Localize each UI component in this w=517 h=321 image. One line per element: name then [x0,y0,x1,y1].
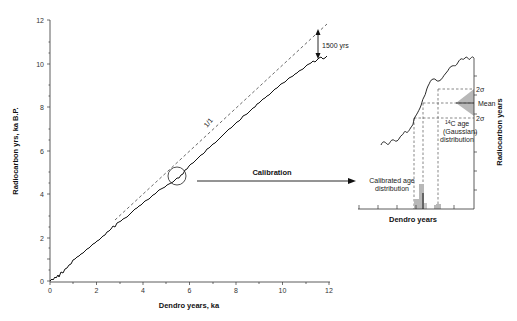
c14-label-line1: 14C age [445,119,469,128]
c14-label-line3: distribution [440,136,474,143]
x-tick-4: 4 [141,287,145,294]
x-tick-12: 12 [325,287,333,294]
c14-label-line2: (Gaussian) [443,128,477,136]
offset-arrow [316,29,321,59]
figure: 0 2 4 6 8 10 12 0 2 4 6 [0,0,517,321]
y-ticks [47,20,50,281]
x-tick-8: 8 [234,287,238,294]
inset-x-axis-title: Dendro years [389,215,437,224]
x-tick-6: 6 [188,287,192,294]
y-axis-title: Radiocarbon yrs, ka B.P. [11,107,20,194]
y-tick-0: 0 [40,278,44,285]
offset-label: 1500 yrs [322,42,349,50]
x-tick-10: 10 [279,287,287,294]
x-tick-0: 0 [48,287,52,294]
calibration-label: Calibration [252,168,292,177]
y-tick-8: 8 [40,104,44,111]
main-chart: 0 2 4 6 8 10 12 0 2 4 6 [11,17,349,310]
inset-chart: 2σ Mean 2σ 14C age (Gaussian) distributi… [358,57,504,224]
one-to-one-line [115,24,327,220]
arrow-right-icon [348,178,356,184]
calibration-arrow: Calibration [197,168,356,184]
inset-y-axis-title: Radiocarbon years [495,98,504,166]
y-tick-2: 2 [40,235,44,242]
arrow-up-icon [316,29,321,35]
x-tick-labels: 0 2 4 6 8 10 12 [48,287,333,294]
x-ticks [50,282,329,285]
mean-label: Mean [478,100,496,107]
calibrated-label-line2: distribution [375,185,409,192]
calibrated-histogram [414,184,441,209]
sigma-upper-label: 2σ [476,86,485,93]
highlight-circle [168,167,186,185]
x-tick-2: 2 [95,287,99,294]
one-to-one-label: 1/1 [202,117,214,129]
sigma-lower-label: 2σ [476,115,485,122]
y-tick-4: 4 [40,191,44,198]
calibrated-label-line1: Calibrated age [369,177,415,185]
x-axis-title: Dendro years, ka [159,301,220,310]
y-tick-labels: 0 2 4 6 8 10 12 [36,17,44,285]
y-tick-12: 12 [36,17,44,24]
y-tick-6: 6 [40,148,44,155]
y-tick-10: 10 [36,61,44,68]
